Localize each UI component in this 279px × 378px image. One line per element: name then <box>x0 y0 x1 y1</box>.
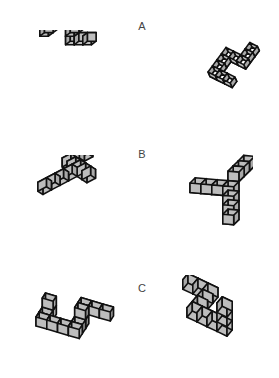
pair-label-b: B <box>132 148 152 160</box>
cube-face <box>89 306 100 318</box>
cube-face <box>212 185 223 196</box>
figure-b-left <box>18 155 118 235</box>
cube-face <box>45 30 54 33</box>
figure-c-left <box>28 290 138 355</box>
figure-a-left <box>20 30 125 92</box>
figure-c-right <box>180 275 265 355</box>
cube-face <box>223 214 234 225</box>
cube-face <box>190 183 201 194</box>
cube-face <box>58 323 69 335</box>
cube-face <box>70 30 79 33</box>
cube-face <box>201 184 212 194</box>
cube-face <box>88 33 97 42</box>
pair-label-a: A <box>132 20 152 32</box>
cube-face <box>99 309 110 321</box>
figure-a-right <box>168 22 268 94</box>
figure-b-right <box>178 143 253 243</box>
cube-face <box>36 317 47 329</box>
